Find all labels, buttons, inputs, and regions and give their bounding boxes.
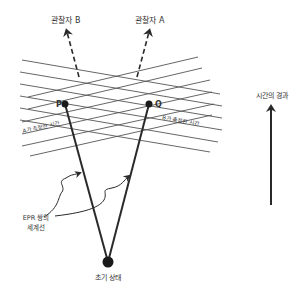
initial-state-dot bbox=[103, 257, 114, 268]
observer-a-label: 관찰자 A bbox=[135, 15, 165, 25]
pointer-arrow-right bbox=[55, 176, 129, 216]
event-q-dot bbox=[146, 101, 153, 108]
event-p-dot bbox=[62, 101, 69, 108]
a-time-label: A가 측정한 시간 bbox=[22, 119, 60, 135]
pointer-arrow-left bbox=[44, 173, 80, 217]
worldline-to-p bbox=[65, 104, 108, 262]
worldline-label-line2: 세계선 bbox=[27, 223, 45, 232]
epr-spacetime-diagram: 관찰자 B 관찰자 A P Q A가 측정한 시간 B가 측정한 시간 EPR … bbox=[0, 0, 304, 295]
event-p-label: P bbox=[56, 100, 62, 109]
initial-state-label: 초기 상태 bbox=[95, 273, 121, 282]
observer-b-label: 관찰자 B bbox=[51, 15, 80, 25]
event-q-label: Q bbox=[155, 100, 162, 109]
observer-b-arrow bbox=[67, 32, 79, 77]
time-flow-label: 시간의 경과 bbox=[256, 91, 289, 100]
b-simultaneity-lines bbox=[22, 57, 214, 156]
a-simultaneity-lines bbox=[20, 60, 222, 152]
worldline-label-line1: EPR 쌍의 bbox=[23, 213, 50, 222]
worldline-to-q bbox=[108, 104, 149, 262]
